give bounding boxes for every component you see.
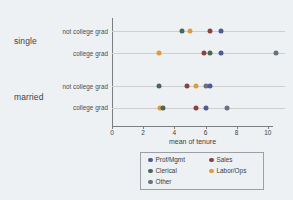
row-label-single-college-grad: college grad xyxy=(40,50,108,57)
data-point xyxy=(201,51,206,56)
chart-legend: Prof/MgmtClericalOtherSalesLabor/Ops xyxy=(140,152,264,190)
x-tick-label: 2 xyxy=(141,129,145,136)
legend-label: Other xyxy=(156,179,172,185)
data-point xyxy=(203,106,208,111)
x-tick-label: 10 xyxy=(264,129,271,136)
group-label-married: married xyxy=(14,92,44,102)
x-axis-label: mean of tenure xyxy=(112,138,273,145)
row-label-married-not-college-grad: not college grad xyxy=(40,83,108,90)
plot-area xyxy=(112,18,285,122)
group-label-single: single xyxy=(14,36,37,46)
data-point xyxy=(208,51,213,56)
row-label-married-college-grad: college grad xyxy=(40,104,108,111)
legend-swatch-icon xyxy=(148,169,153,174)
dotplot-chart: single married not college grad college … xyxy=(0,0,293,200)
data-point xyxy=(219,29,224,34)
data-point xyxy=(156,84,161,89)
data-point xyxy=(194,106,199,111)
data-point xyxy=(184,84,189,89)
legend-swatch-icon xyxy=(148,158,153,163)
legend-label: Clerical xyxy=(156,168,177,174)
gridline xyxy=(112,53,285,54)
data-point xyxy=(187,29,192,34)
legend-swatch-icon xyxy=(209,169,214,174)
data-point xyxy=(180,29,185,34)
data-point xyxy=(225,106,230,111)
legend-label: Sales xyxy=(217,157,233,163)
x-tick-label: 4 xyxy=(173,129,177,136)
gridline xyxy=(112,31,285,32)
legend-label: Prof/Mgmt xyxy=(156,157,185,163)
x-tick-label: 6 xyxy=(204,129,208,136)
legend-item-clerical[interactable]: Clerical xyxy=(148,168,177,174)
data-point xyxy=(208,84,213,89)
legend-item-sales[interactable]: Sales xyxy=(209,157,233,163)
data-point xyxy=(273,51,278,56)
x-tick-label: 0 xyxy=(110,129,114,136)
data-point xyxy=(219,51,224,56)
legend-item-labor-ops[interactable]: Labor/Ops xyxy=(209,168,246,174)
legend-swatch-icon xyxy=(209,158,214,163)
data-point xyxy=(160,106,165,111)
legend-item-prof-mgmt[interactable]: Prof/Mgmt xyxy=(148,157,185,163)
legend-item-other[interactable]: Other xyxy=(148,179,171,185)
x-tick-label: 8 xyxy=(235,129,239,136)
legend-swatch-icon xyxy=(148,180,153,185)
data-point xyxy=(194,84,199,89)
data-point xyxy=(156,51,161,56)
row-label-single-not-college-grad: not college grad xyxy=(40,28,108,35)
legend-label: Labor/Ops xyxy=(217,168,247,174)
x-axis-line xyxy=(112,126,273,127)
data-point xyxy=(208,29,213,34)
